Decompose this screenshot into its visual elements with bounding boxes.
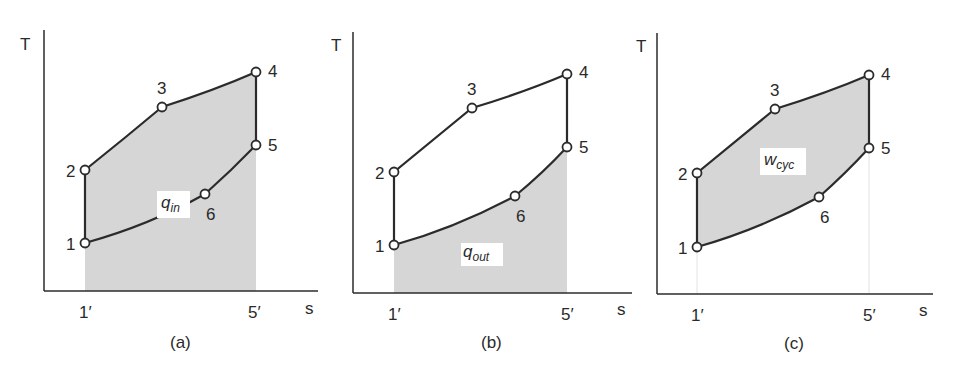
point-label-6: 6: [516, 207, 525, 226]
x-tick-1prime: 1′: [79, 303, 92, 322]
point-label-3: 3: [467, 80, 476, 99]
x-axis-label: s: [305, 299, 314, 318]
point-label-1: 1: [375, 237, 384, 256]
panel-b: qout 1 2 3 4 5 6 T s 1′ 5′ (b): [331, 32, 632, 352]
caption-c: (c): [784, 334, 804, 353]
y-axis-label: T: [636, 37, 646, 56]
point-label-1: 1: [678, 239, 687, 258]
point-label-6: 6: [820, 208, 829, 227]
point-label-3: 3: [770, 81, 779, 100]
x-axis-label: s: [617, 300, 626, 319]
point-label-4: 4: [268, 62, 277, 81]
point-label-5: 5: [881, 139, 890, 158]
point-label-1: 1: [66, 235, 75, 254]
x-tick-5prime: 5′: [863, 306, 876, 325]
point-label-2: 2: [375, 164, 384, 183]
point-label-5: 5: [268, 136, 277, 155]
x-tick-1prime: 1′: [388, 305, 401, 324]
x-tick-5prime: 5′: [248, 303, 261, 322]
caption-a: (a): [170, 333, 191, 352]
y-axis-label: T: [20, 35, 30, 54]
panel-c: wcyc 1 2 3 4 5 6 T s 1′ 5′ (c): [636, 33, 933, 353]
point-label-2: 2: [66, 162, 75, 181]
x-tick-1prime: 1′: [691, 306, 704, 325]
y-axis-label: T: [331, 36, 341, 55]
point-label-4: 4: [881, 65, 890, 84]
point-label-2: 2: [678, 165, 687, 184]
ts-diagram-figure: qin 1 2 3 4 5 6 T s 1′ 5′ (a) qout 1 2 3…: [0, 0, 961, 377]
shaded-area-q-out: [394, 147, 567, 293]
point-label-6: 6: [206, 205, 215, 224]
point-label-5: 5: [579, 138, 588, 157]
x-axis-label: s: [919, 301, 928, 320]
caption-b: (b): [481, 333, 502, 352]
panel-a: qin 1 2 3 4 5 6 T s 1′ 5′ (a): [20, 30, 318, 352]
point-label-3: 3: [157, 79, 166, 98]
point-label-4: 4: [579, 63, 588, 82]
x-tick-5prime: 5′: [561, 305, 574, 324]
